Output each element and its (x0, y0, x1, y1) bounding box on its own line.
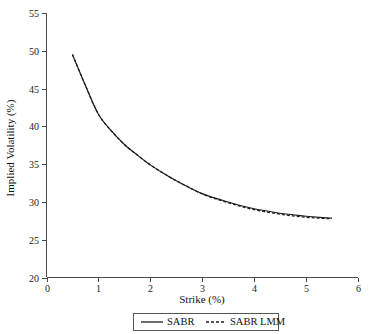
x-tick-label: 4 (252, 283, 257, 294)
y-axis-ticks (42, 14, 47, 279)
y-tick-label: 55 (29, 8, 39, 19)
data-series-group (72, 55, 332, 219)
x-axis-title: Strike (%) (179, 293, 225, 306)
chart-legend: SABR SABR LMM (134, 314, 286, 331)
y-tick-label: 35 (29, 159, 39, 170)
y-axis-tick-labels: 2025303540455055 (29, 8, 39, 284)
y-axis-title: Implied Volatility (%) (4, 99, 17, 196)
x-axis: 0123456 (45, 278, 361, 295)
legend-label-sabr: SABR (167, 316, 194, 327)
y-tick-label: 25 (29, 235, 39, 246)
y-tick-label: 40 (29, 121, 39, 132)
implied-volatility-smile-chart: 2025303540455055 0123456 Strike (%) Impl… (0, 0, 381, 334)
y-tick-label: 30 (29, 197, 39, 208)
series-line-sabr-lmm (72, 55, 332, 219)
y-tick-label: 20 (29, 273, 39, 284)
y-tick-label: 50 (29, 46, 39, 57)
y-tick-label: 45 (29, 84, 39, 95)
chart-figure: 2025303540455055 0123456 Strike (%) Impl… (0, 0, 381, 334)
x-tick-label: 1 (96, 283, 101, 294)
x-tick-label: 2 (148, 283, 153, 294)
x-tick-label: 6 (356, 283, 361, 294)
x-axis-ticks (48, 278, 359, 283)
x-tick-label: 0 (45, 283, 50, 294)
legend-label-sabr-lmm: SABR LMM (230, 316, 286, 327)
x-tick-label: 5 (304, 283, 309, 294)
y-axis: 2025303540455055 (29, 8, 47, 284)
